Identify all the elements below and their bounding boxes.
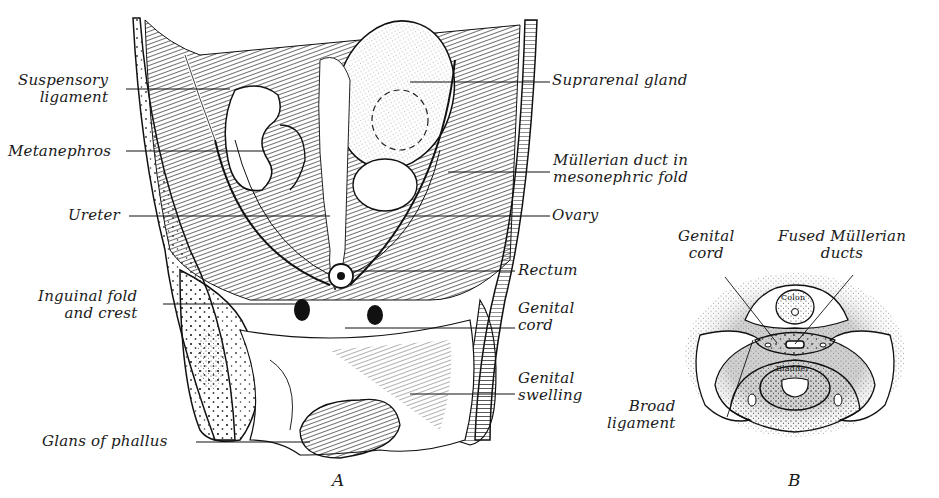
panel-a-letter: A — [332, 470, 344, 490]
label-broad-ligament: Broad ligament — [607, 398, 676, 432]
label-line: cord — [518, 317, 575, 334]
label-line: Inguinal fold — [38, 288, 137, 305]
label-metanephros: Metanephros — [8, 143, 111, 160]
label-line: swelling — [518, 387, 583, 404]
label-suprarenal-gland: Suprarenal gland — [552, 72, 688, 89]
label-genital-cord-a: Genital cord — [518, 300, 575, 334]
panel-b-letter: B — [788, 470, 801, 490]
label-line: Ureter — [68, 207, 120, 224]
label-line: ducts — [778, 245, 906, 262]
panel-a-drawing — [126, 8, 550, 458]
label-line: Ovary — [552, 207, 598, 224]
label-glans-of-phallus: Glans of phallus — [42, 433, 168, 450]
label-line: Genital — [678, 228, 735, 245]
label-line: cord — [678, 245, 735, 262]
label-line: mesonephric fold — [553, 169, 688, 186]
label-bladder: Bladder — [776, 364, 809, 373]
label-line: Genital — [518, 300, 575, 317]
label-line: Suspensory — [18, 72, 108, 89]
label-line: ligament — [18, 89, 108, 106]
label-line: Broad — [607, 398, 676, 415]
label-ureter: Ureter — [68, 207, 120, 224]
label-line: Glans of phallus — [42, 433, 168, 450]
label-line: Genital — [518, 370, 583, 387]
label-genital-swelling: Genital swelling — [518, 370, 583, 404]
label-line: Müllerian duct in — [553, 152, 688, 169]
label-line: Fused Müllerian — [778, 228, 906, 245]
label-line: Rectum — [518, 262, 578, 279]
label-mullerian-duct-in-mesonephric-fold: Müllerian duct in mesonephric fold — [553, 152, 688, 186]
label-colon: Colon — [781, 293, 805, 302]
label-genital-cord-b: Genital cord — [678, 228, 735, 262]
label-ovary: Ovary — [552, 207, 598, 224]
label-line: Suprarenal gland — [552, 72, 688, 89]
label-line: and crest — [38, 305, 137, 322]
label-rectum: Rectum — [518, 262, 578, 279]
label-suspensory-ligament: Suspensory ligament — [18, 72, 108, 106]
label-line: ligament — [607, 415, 676, 432]
label-line: Metanephros — [8, 143, 111, 160]
label-inguinal-fold-and-crest: Inguinal fold and crest — [38, 288, 137, 322]
label-fused-mullerian-ducts: Fused Müllerian ducts — [778, 228, 906, 262]
